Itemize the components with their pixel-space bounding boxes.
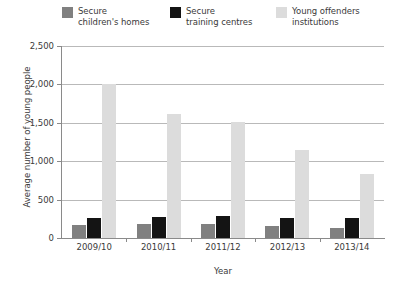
- x-axis-title: Year: [62, 266, 384, 276]
- y-tick-label: 1,500: [14, 118, 54, 128]
- bar-group: [265, 46, 309, 238]
- legend-item-young-offenders-institutions: Young offenders institutions: [276, 6, 392, 27]
- y-tick-mark: [57, 200, 61, 201]
- y-tick-label: 500: [14, 195, 54, 205]
- y-tick-mark: [57, 123, 61, 124]
- bar: [102, 84, 116, 238]
- legend-label-secure-childrens-homes: Secure children's homes: [78, 6, 149, 27]
- bar: [330, 228, 344, 238]
- y-tick-mark: [57, 161, 61, 162]
- bar: [216, 216, 230, 238]
- bar: [152, 217, 166, 238]
- bar: [345, 218, 359, 238]
- y-tick-mark: [57, 84, 61, 85]
- x-tick-label: 2010/11: [124, 242, 194, 252]
- x-tick-label: 2012/13: [252, 242, 322, 252]
- bar: [360, 174, 374, 238]
- bar-group: [201, 46, 245, 238]
- bar: [231, 122, 245, 238]
- x-tick-label: 2013/14: [317, 242, 387, 252]
- x-tick-mark: [255, 238, 256, 242]
- bar-chart: Secure children's homes Secure training …: [0, 0, 396, 287]
- y-tick-label: 1,000: [14, 156, 54, 166]
- bar-group: [72, 46, 116, 238]
- x-tick-label: 2009/10: [59, 242, 129, 252]
- legend-label-secure-training-centres: Secure training centres: [186, 6, 252, 27]
- y-tick-label: 0: [14, 233, 54, 243]
- bar: [87, 218, 101, 238]
- y-tick-mark: [57, 238, 61, 239]
- legend-item-secure-childrens-homes: Secure children's homes: [62, 6, 170, 27]
- x-tick-label: 2011/12: [188, 242, 258, 252]
- legend-label-young-offenders-institutions: Young offenders institutions: [292, 6, 360, 27]
- y-tick-label: 2,000: [14, 79, 54, 89]
- bar: [280, 218, 294, 238]
- x-tick-mark: [191, 238, 192, 242]
- legend-swatch-secure-training-centres: [170, 7, 181, 18]
- legend-item-secure-training-centres: Secure training centres: [170, 6, 276, 27]
- bar: [137, 224, 151, 238]
- bar: [201, 224, 215, 238]
- bar: [167, 114, 181, 238]
- y-tick-label: 2,500: [14, 41, 54, 51]
- bar: [295, 150, 309, 238]
- chart-legend: Secure children's homes Secure training …: [62, 6, 392, 36]
- bar-group: [330, 46, 374, 238]
- plot-area: [62, 46, 384, 238]
- bar: [265, 226, 279, 238]
- bar-group: [137, 46, 181, 238]
- x-axis-line: [61, 238, 385, 239]
- x-tick-mark: [320, 238, 321, 242]
- x-tick-mark: [126, 238, 127, 242]
- legend-swatch-young-offenders-institutions: [276, 7, 287, 18]
- bar: [72, 225, 86, 238]
- legend-swatch-secure-childrens-homes: [62, 7, 73, 18]
- y-tick-mark: [57, 46, 61, 47]
